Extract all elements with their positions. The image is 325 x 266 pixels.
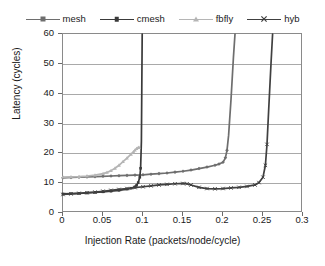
y-tick-label-10: 10 <box>28 177 54 187</box>
legend-item-hyb: hyb <box>247 14 299 24</box>
y-tick-label-20: 20 <box>28 147 54 157</box>
x-marker-icon <box>261 16 268 23</box>
x-tick-mark-0 <box>62 212 63 216</box>
legend-item-fbfly: fbfly <box>179 14 233 24</box>
marker-mesh <box>165 171 169 175</box>
x-tick-mark-0.3 <box>302 212 303 216</box>
legend-marker-cmesh <box>100 15 134 24</box>
marker-mesh <box>101 175 105 179</box>
legend-label-fbfly: fbfly <box>216 14 233 24</box>
x-tick-label-0: 0 <box>42 215 82 225</box>
marker-mesh <box>149 172 153 176</box>
y-tick-label-50: 50 <box>28 58 54 68</box>
x-tick-mark-0.25 <box>262 212 263 216</box>
x-tick-label-0.05: 0.05 <box>82 215 122 225</box>
marker-mesh <box>125 174 129 178</box>
x-tick-mark-0.1 <box>142 212 143 216</box>
legend-item-cmesh: cmesh <box>100 14 165 24</box>
marker-mesh <box>205 165 209 169</box>
x-axis-title: Injection Rate (packets/node/cycle) <box>0 235 325 246</box>
series-fbfly <box>61 145 141 178</box>
latency-vs-injection-rate-chart: mesh cmesh fbfly hyb L <box>0 0 325 266</box>
marker-mesh <box>133 173 137 177</box>
legend-label-hyb: hyb <box>284 14 299 24</box>
marker-cmesh <box>139 167 142 170</box>
legend-label-cmesh: cmesh <box>137 14 165 24</box>
legend-label-mesh: mesh <box>63 14 86 24</box>
marker-mesh <box>141 173 145 177</box>
x-tick-label-0.1: 0.1 <box>122 215 162 225</box>
series-cmesh <box>62 34 143 195</box>
marker-mesh <box>173 170 177 174</box>
x-tick-mark-0.05 <box>102 212 103 216</box>
marker-cmesh <box>137 181 140 184</box>
y-axis-title: Latency (cycles) <box>11 24 22 144</box>
x-tick-mark-0.2 <box>222 212 223 216</box>
y-tick-label-60: 60 <box>28 28 54 38</box>
y-tick-label-30: 30 <box>28 118 54 128</box>
legend-item-mesh: mesh <box>26 14 86 24</box>
marker-mesh <box>225 149 229 153</box>
y-tick-label-40: 40 <box>28 88 54 98</box>
marker-mesh <box>197 167 201 171</box>
marker-mesh <box>157 172 161 176</box>
marker-mesh <box>181 169 185 173</box>
x-tick-label-0.15: 0.15 <box>162 215 202 225</box>
plot-area <box>62 33 302 212</box>
x-tick-mark-0.15 <box>182 212 183 216</box>
line-hyb <box>63 34 273 195</box>
line-fbfly <box>63 147 139 177</box>
x-tick-label-0.3: 0.3 <box>282 215 322 225</box>
x-tick-label-0.2: 0.2 <box>202 215 242 225</box>
marker-mesh <box>109 174 113 178</box>
series-mesh <box>61 34 235 180</box>
series-lines <box>63 34 303 213</box>
x-tick-label-0.25: 0.25 <box>242 215 282 225</box>
marker-cmesh <box>139 176 142 179</box>
legend-marker-mesh <box>26 15 60 24</box>
legend-marker-fbfly <box>179 15 213 24</box>
legend-marker-hyb <box>247 15 281 24</box>
line-cmesh <box>63 34 142 194</box>
marker-mesh <box>189 168 193 172</box>
marker-mesh <box>117 174 121 178</box>
line-mesh <box>63 34 235 178</box>
